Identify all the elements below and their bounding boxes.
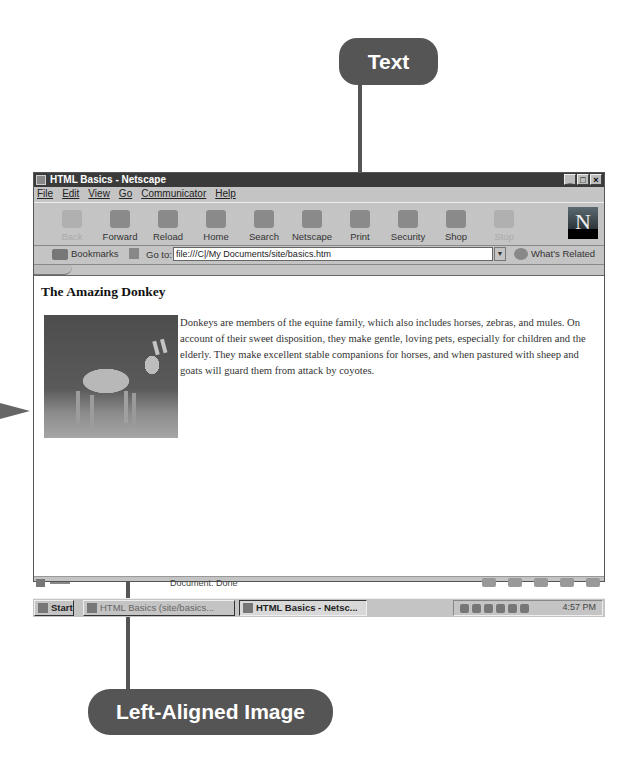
tray-icon-5[interactable] bbox=[508, 604, 517, 613]
back-label: Back bbox=[61, 231, 82, 242]
text-callout: Text bbox=[339, 38, 438, 85]
address-book-icon[interactable] bbox=[560, 578, 574, 587]
taskbar: Start HTML Basics (site/basics... HTML B… bbox=[33, 598, 605, 617]
taskbar-task-2[interactable]: HTML Basics - Netsc... bbox=[239, 600, 367, 616]
tray-icon-4[interactable] bbox=[496, 604, 505, 613]
left-arrow-head bbox=[0, 403, 30, 419]
menu-go[interactable]: Go bbox=[119, 187, 132, 201]
taskbar-task-1[interactable]: HTML Basics (site/basics... bbox=[83, 600, 235, 616]
menu-bar: File Edit View Go Communicator Help bbox=[34, 187, 604, 201]
tray-icon-2[interactable] bbox=[472, 604, 481, 613]
stop-icon bbox=[494, 210, 514, 228]
navigator-icon[interactable] bbox=[482, 578, 496, 587]
task-2-label: HTML Basics - Netsc... bbox=[256, 602, 358, 613]
menu-help[interactable]: Help bbox=[215, 187, 236, 201]
back-button[interactable]: Back bbox=[50, 203, 94, 245]
shop-button[interactable]: Shop bbox=[434, 203, 478, 245]
composer-icon[interactable] bbox=[586, 578, 600, 587]
close-button[interactable]: × bbox=[590, 174, 602, 185]
task-1-label: HTML Basics (site/basics... bbox=[100, 602, 214, 613]
menu-edit[interactable]: Edit bbox=[62, 187, 79, 201]
netscape-window-icon bbox=[36, 175, 46, 185]
search-icon bbox=[254, 210, 274, 228]
whats-related-label: What's Related bbox=[531, 248, 595, 259]
shop-label: Shop bbox=[445, 231, 467, 242]
status-bar: Document: Done bbox=[34, 576, 604, 589]
netscape-task-icon bbox=[243, 603, 253, 613]
bookmarks-icon bbox=[52, 249, 68, 260]
print-label: Print bbox=[350, 231, 370, 242]
mail-icon[interactable] bbox=[508, 578, 522, 587]
forward-button[interactable]: Forward bbox=[98, 203, 142, 245]
component-bar bbox=[482, 578, 600, 587]
reload-button[interactable]: Reload bbox=[146, 203, 190, 245]
netscape-button[interactable]: Netscape bbox=[290, 203, 334, 245]
image-callout: Left-Aligned Image bbox=[88, 689, 333, 735]
page-heading: The Amazing Donkey bbox=[41, 284, 166, 300]
home-button[interactable]: Home bbox=[194, 203, 238, 245]
reload-label: Reload bbox=[153, 231, 183, 242]
system-tray: 4:57 PM bbox=[453, 600, 603, 616]
page-paragraph: Donkeys are members of the equine family… bbox=[180, 315, 590, 379]
connection-icon bbox=[50, 582, 70, 584]
donkey-image bbox=[44, 315, 178, 438]
newsgroups-icon[interactable] bbox=[534, 578, 548, 587]
security-button[interactable]: Security bbox=[386, 203, 430, 245]
menu-file[interactable]: File bbox=[37, 187, 53, 201]
location-toolbar: Bookmarks Go to: file:///C|/My Documents… bbox=[34, 245, 604, 265]
security-lock-icon[interactable] bbox=[36, 579, 45, 587]
title-bar[interactable]: HTML Basics - Netscape _ □ × bbox=[34, 173, 604, 187]
whats-related-button[interactable]: What's Related bbox=[514, 248, 595, 260]
print-icon bbox=[350, 210, 370, 228]
stop-button[interactable]: Stop bbox=[482, 203, 526, 245]
start-button[interactable]: Start bbox=[34, 600, 74, 616]
search-label: Search bbox=[249, 231, 279, 242]
url-input[interactable]: file:///C|/My Documents/site/basics.htm bbox=[173, 247, 493, 261]
netscape-logo[interactable]: N bbox=[568, 207, 598, 239]
menu-communicator[interactable]: Communicator bbox=[141, 187, 206, 201]
security-label: Security bbox=[391, 231, 425, 242]
tray-icon-1[interactable] bbox=[460, 604, 469, 613]
bookmarks-label: Bookmarks bbox=[71, 248, 119, 259]
navigation-toolbar: Back Forward Reload Home Search Netscape… bbox=[34, 202, 604, 246]
print-button[interactable]: Print bbox=[338, 203, 382, 245]
whats-related-icon bbox=[514, 248, 528, 260]
url-dropdown-button[interactable]: ▼ bbox=[494, 247, 506, 261]
home-label: Home bbox=[203, 231, 228, 242]
bookmarks-button[interactable]: Bookmarks bbox=[52, 248, 119, 260]
maximize-button[interactable]: □ bbox=[577, 174, 589, 185]
back-arrow-icon bbox=[62, 210, 82, 228]
windows-logo-icon bbox=[38, 603, 48, 613]
menu-view[interactable]: View bbox=[88, 187, 110, 201]
minimize-button[interactable]: _ bbox=[564, 174, 576, 185]
netscape-label: Netscape bbox=[292, 231, 332, 242]
forward-label: Forward bbox=[103, 231, 138, 242]
reload-icon bbox=[158, 210, 178, 228]
stop-label: Stop bbox=[494, 231, 514, 242]
task-app-icon bbox=[87, 603, 97, 613]
toolbar-collapse-tab[interactable] bbox=[34, 265, 72, 275]
page-content: The Amazing Donkey Donkeys are members o… bbox=[34, 275, 604, 576]
page-proxy-icon[interactable] bbox=[129, 248, 139, 259]
start-label: Start bbox=[51, 602, 73, 613]
window-title: HTML Basics - Netscape bbox=[50, 174, 166, 185]
shop-icon bbox=[446, 210, 466, 228]
home-icon bbox=[206, 210, 226, 228]
browser-window: HTML Basics - Netscape _ □ × File Edit V… bbox=[33, 172, 605, 582]
clock[interactable]: 4:57 PM bbox=[562, 602, 596, 612]
netscape-icon bbox=[302, 210, 322, 228]
goto-label: Go to: bbox=[146, 249, 172, 260]
forward-arrow-icon bbox=[110, 210, 130, 228]
status-text: Document: Done bbox=[170, 577, 238, 589]
tray-icon-3[interactable] bbox=[484, 604, 493, 613]
security-icon bbox=[398, 210, 418, 228]
tray-icon-6[interactable] bbox=[520, 604, 529, 613]
search-button[interactable]: Search bbox=[242, 203, 286, 245]
